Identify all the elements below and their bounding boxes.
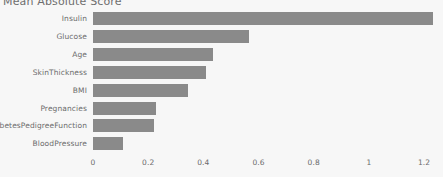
bar-fill xyxy=(93,66,206,79)
x-tick-label-1: 1 xyxy=(366,158,371,167)
bar-fill xyxy=(93,102,156,115)
y-tick-label-pregnancies: Pregnancies xyxy=(0,102,87,115)
y-tick-label-glucose: Glucose xyxy=(0,30,87,43)
x-tick-label-0-2: 0.2 xyxy=(142,158,154,167)
y-tick-label-bloodpressure: BloodPressure xyxy=(0,137,87,150)
x-axis: 00.20.40.60.811.2 xyxy=(0,155,443,177)
x-tick-label-0-8: 0.8 xyxy=(308,158,320,167)
bar-fill xyxy=(93,30,249,43)
plot-area xyxy=(93,12,443,155)
x-tick-label-1-2: 1.2 xyxy=(418,158,430,167)
bar-chart: Mean Absolute Score InsulinGlucoseAgeSki… xyxy=(0,0,443,177)
x-tick-label-0-6: 0.6 xyxy=(252,158,264,167)
y-tick-label-age: Age xyxy=(0,48,87,61)
y-tick-label-skinthickness: SkinThickness xyxy=(0,66,87,79)
bar-fill xyxy=(93,12,433,25)
chart-title: Mean Absolute Score xyxy=(3,0,122,8)
bar-fill xyxy=(93,84,188,97)
bar-fill xyxy=(93,119,154,132)
bar-fill xyxy=(93,137,123,150)
bar-fill xyxy=(93,48,213,61)
x-tick-label-0-4: 0.4 xyxy=(197,158,209,167)
y-axis-labels: InsulinGlucoseAgeSkinThicknessBMIPregnan… xyxy=(0,12,90,155)
x-tick-label-0: 0 xyxy=(91,158,96,167)
y-tick-label-diabetespedigreefunction: DiabetesPedigreeFunction xyxy=(0,119,87,132)
y-tick-label-insulin: Insulin xyxy=(0,12,87,25)
y-tick-label-bmi: BMI xyxy=(0,84,87,97)
